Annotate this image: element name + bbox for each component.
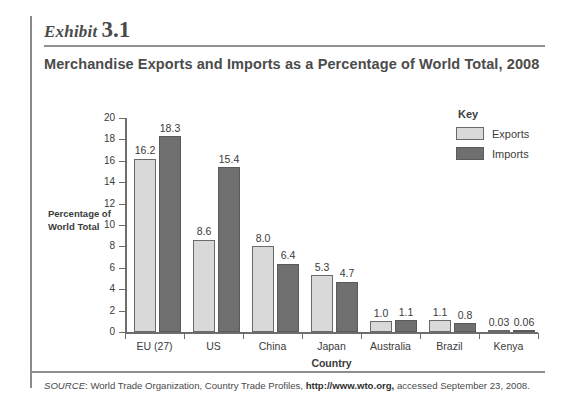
- source-text-before: : World Trade Organization, Country Trad…: [85, 380, 306, 391]
- bar-value-label: 8.0: [243, 233, 283, 244]
- x-tick-7: [538, 333, 539, 339]
- bar-group: 8.615.4: [187, 118, 240, 332]
- y-tick-label-12: 12: [73, 199, 115, 209]
- x-axis-title: Country: [125, 357, 538, 369]
- x-tick-0: [125, 333, 126, 339]
- source-note: SOURCE: World Trade Organization, Countr…: [44, 380, 554, 392]
- bar-group: 1.01.1: [364, 118, 417, 332]
- left-vertical-rule: [30, 16, 32, 388]
- x-tick-1: [184, 333, 185, 339]
- bar-value-label: 4.7: [327, 268, 367, 279]
- x-tick-4: [361, 333, 362, 339]
- bar-imports[interactable]: [513, 330, 535, 332]
- x-tick-2: [243, 333, 244, 339]
- bar-group: 0.030.06: [482, 118, 535, 332]
- bar-exports[interactable]: [488, 330, 510, 332]
- bar-exports[interactable]: [370, 321, 392, 332]
- bar-value-label: 6.4: [268, 250, 308, 261]
- exhibit-figure: Exhibit3.1 Merchandise Exports and Impor…: [0, 0, 574, 413]
- bar-exports[interactable]: [311, 275, 333, 332]
- y-tick-label-0: 0: [73, 327, 115, 337]
- bar-exports[interactable]: [134, 159, 156, 332]
- x-tick-6: [479, 333, 480, 339]
- x-axis-line: [125, 332, 538, 334]
- category-label: Kenya: [464, 341, 554, 352]
- y-tick-label-2: 2: [73, 306, 115, 316]
- bar-imports[interactable]: [454, 323, 476, 332]
- x-tick-3: [302, 333, 303, 339]
- exhibit-number: 3.1: [101, 17, 130, 42]
- bar-imports[interactable]: [395, 320, 417, 332]
- bar-value-label: 18.3: [150, 123, 190, 134]
- y-tick-label-20: 20: [73, 113, 115, 123]
- y-tick-label-8: 8: [73, 241, 115, 251]
- y-tick-label-14: 14: [73, 177, 115, 187]
- exhibit-label-line: Exhibit3.1: [44, 18, 544, 41]
- bar-exports[interactable]: [429, 320, 451, 332]
- source-prefix: SOURCE: [44, 380, 85, 391]
- bar-imports[interactable]: [218, 167, 240, 332]
- source-url[interactable]: http://www.wto.org,: [306, 380, 395, 391]
- bar-imports[interactable]: [159, 136, 181, 332]
- bar-imports[interactable]: [277, 264, 299, 332]
- bar-exports[interactable]: [193, 240, 215, 332]
- y-tick-label-18: 18: [73, 134, 115, 144]
- bar-imports[interactable]: [336, 282, 358, 332]
- bar-group: 5.34.7: [305, 118, 358, 332]
- footer-divider: [30, 371, 545, 373]
- bar-group: 16.218.3: [128, 118, 181, 332]
- y-tick-label-10: 10: [73, 220, 115, 230]
- bar-value-label: 0.06: [504, 317, 544, 328]
- y-axis-title-line1: Percentage of: [48, 208, 111, 219]
- page-title: Merchandise Exports and Imports as a Per…: [44, 55, 544, 74]
- y-tick-label-4: 4: [73, 284, 115, 294]
- exhibit-word: Exhibit: [44, 22, 97, 41]
- x-tick-5: [420, 333, 421, 339]
- source-text-after: accessed September 23, 2008.: [394, 380, 529, 391]
- y-tick-label-6: 6: [73, 263, 115, 273]
- y-tick-label-16: 16: [73, 156, 115, 166]
- exhibit-header: Exhibit3.1 Merchandise Exports and Impor…: [44, 18, 544, 74]
- bar-value-label: 15.4: [209, 154, 249, 165]
- bar-group: 8.06.4: [246, 118, 299, 332]
- header-divider: [44, 45, 545, 47]
- bars-layer: 16.218.38.615.48.06.45.34.71.01.11.10.80…: [125, 118, 538, 332]
- bar-group: 1.10.8: [423, 118, 476, 332]
